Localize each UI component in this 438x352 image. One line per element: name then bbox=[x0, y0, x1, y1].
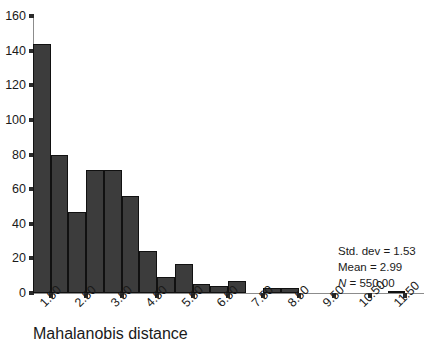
histogram-bar bbox=[68, 212, 86, 293]
y-tick-label: 160 bbox=[0, 9, 26, 23]
y-tick-label: 100 bbox=[0, 113, 26, 127]
y-tick-label: 20 bbox=[0, 251, 26, 265]
histogram-bar bbox=[86, 170, 104, 293]
std-dev-label: Std. dev = 1.53 bbox=[338, 243, 416, 259]
stats-annotation: Std. dev = 1.53 Mean = 2.99 N = 550.00 bbox=[338, 243, 416, 291]
x-axis-title: Mahalanobis distance bbox=[33, 325, 188, 343]
histogram-bar bbox=[51, 155, 69, 294]
histogram-bar bbox=[122, 196, 140, 293]
mean-label: Mean = 2.99 bbox=[338, 259, 416, 275]
histogram-chart: 020406080100120140160 1.502.503.504.505.… bbox=[0, 0, 438, 352]
y-tick-label: 140 bbox=[0, 44, 26, 58]
y-tick-label: 80 bbox=[0, 148, 26, 162]
n-value: = 550.00 bbox=[346, 277, 394, 289]
histogram-bar bbox=[104, 170, 122, 293]
y-tick-label: 120 bbox=[0, 78, 26, 92]
y-tick-label: 40 bbox=[0, 217, 26, 231]
y-tick-label: 0 bbox=[0, 286, 26, 300]
histogram-bar bbox=[33, 44, 51, 293]
n-label: N = 550.00 bbox=[338, 275, 416, 291]
y-tick-label: 60 bbox=[0, 182, 26, 196]
